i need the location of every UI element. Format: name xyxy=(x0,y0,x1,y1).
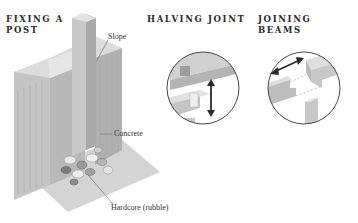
joining-beams-illustration xyxy=(266,50,346,130)
hardcore-label: Hardcore (rubble) xyxy=(111,203,169,212)
fixing-post-illustration xyxy=(14,13,160,212)
slope-label: Slope xyxy=(108,32,126,41)
halving-joint-illustration xyxy=(160,40,250,130)
concrete-label: Concrete xyxy=(114,129,143,138)
illustration-canvas xyxy=(0,0,358,223)
